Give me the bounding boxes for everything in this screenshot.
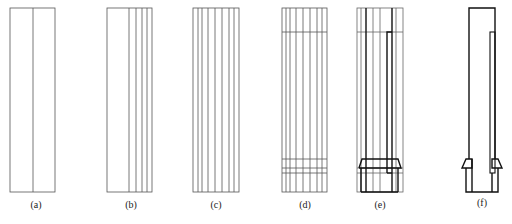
panel-d [282,8,327,192]
figure-panels: (a) (b) (c) (d) [0,0,512,224]
panel-f-label: (f) [477,197,487,209]
panel-a [10,8,55,192]
panel-f [462,8,502,192]
panel-b [107,8,152,192]
panel-a-label: (a) [30,199,41,211]
panel-b-label: (b) [125,199,137,211]
panel-d-label: (d) [299,199,311,211]
panel-e-label: (e) [374,199,385,211]
panel-e [357,8,403,192]
panel-c [193,8,239,192]
panel-c-label: (c) [210,199,221,211]
